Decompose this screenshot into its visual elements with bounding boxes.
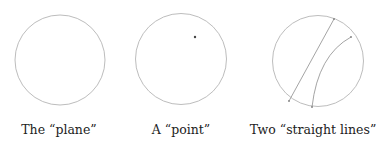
panel-plane: [15, 15, 105, 105]
line1-endpoint-bottom: [288, 100, 290, 102]
line2-endpoint-bottom: [311, 106, 313, 108]
line2-endpoint-top: [350, 36, 352, 38]
plane-disk: [15, 15, 105, 105]
line1-endpoint-top: [333, 18, 335, 20]
point-dot: [194, 36, 196, 38]
point-disk: [136, 14, 227, 105]
panel-point: [136, 14, 227, 105]
panel-lines: [273, 16, 364, 109]
caption-point: A “point”: [152, 122, 210, 137]
caption-plane: The “plane”: [21, 122, 96, 137]
caption-lines: Two “straight lines”: [250, 122, 377, 137]
lines-disk: [273, 16, 364, 107]
